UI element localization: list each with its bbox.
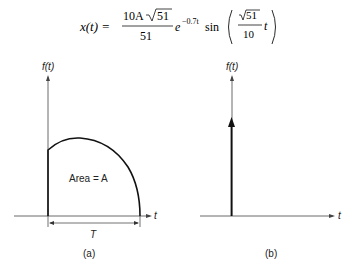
- figure-b: f(t) t (b): [180, 55, 359, 279]
- x-axis-label: t: [338, 210, 342, 221]
- caption-b: (b): [265, 248, 277, 259]
- equation: x(t) = 10A 51 51 e −0.7t sin 51 10 t: [0, 6, 359, 48]
- x-axis-arrow-icon: [146, 214, 152, 218]
- y-axis-label: f(t): [226, 61, 238, 72]
- right-paren: [272, 10, 276, 44]
- dimension-arrow-right-icon: [134, 221, 139, 225]
- figure-a: f(t) t Area = A T (a): [0, 55, 180, 279]
- equation-sqrt-arg: 51: [157, 9, 169, 23]
- impulse-arrow-icon: [228, 117, 235, 127]
- y-axis-label: f(t): [42, 61, 54, 72]
- equation-exp-base: e: [175, 20, 181, 34]
- y-axis-arrow-icon: [46, 75, 50, 81]
- equation-inner-sqrt-arg: 51: [246, 9, 257, 21]
- equation-func: sin: [205, 20, 219, 34]
- x-axis-label: t: [154, 210, 158, 221]
- equation-denominator: 51: [140, 29, 152, 43]
- y-axis-arrow-icon: [230, 75, 234, 81]
- dimension-arrow-left-icon: [49, 221, 54, 225]
- area-label: Area = A: [69, 173, 108, 184]
- caption-a: (a): [83, 248, 95, 259]
- equation-numerator: 10A: [123, 9, 144, 23]
- equation-inner-var: t: [264, 19, 268, 33]
- width-label: T: [90, 229, 97, 240]
- left-paren: [229, 10, 233, 44]
- equation-lhs: x(t) =: [79, 19, 110, 34]
- equation-exponent: −0.7t: [182, 17, 200, 26]
- x-axis-arrow-icon: [329, 214, 335, 218]
- equation-inner-den: 10: [243, 28, 255, 40]
